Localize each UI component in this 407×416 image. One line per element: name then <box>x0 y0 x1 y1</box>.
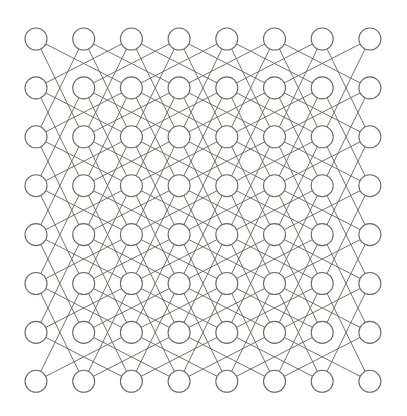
graph-node <box>73 321 95 343</box>
graph-node <box>216 321 238 343</box>
graph-node <box>264 273 286 295</box>
graph-node <box>168 28 190 50</box>
graph-node <box>216 126 238 148</box>
graph-node <box>216 370 238 392</box>
graph-node <box>264 28 286 50</box>
graph-node <box>311 370 333 392</box>
graph-node <box>120 175 142 197</box>
graph-node <box>73 224 95 246</box>
graph-node <box>168 370 190 392</box>
graph-node <box>73 175 95 197</box>
graph-node <box>120 370 142 392</box>
knight-graph-figure <box>0 0 407 416</box>
graph-node <box>311 224 333 246</box>
graph-node <box>216 175 238 197</box>
graph-node <box>120 224 142 246</box>
graph-node <box>120 28 142 50</box>
graph-node <box>25 321 47 343</box>
graph-node <box>25 273 47 295</box>
knight-graph-canvas <box>0 0 407 416</box>
graph-node <box>359 77 381 99</box>
graph-node <box>25 370 47 392</box>
graph-node <box>359 28 381 50</box>
graph-node <box>73 370 95 392</box>
graph-node <box>216 77 238 99</box>
graph-node <box>264 126 286 148</box>
graph-node <box>25 224 47 246</box>
graph-node <box>311 77 333 99</box>
graph-node <box>120 77 142 99</box>
graph-node <box>168 321 190 343</box>
graph-node <box>120 126 142 148</box>
graph-node <box>168 77 190 99</box>
graph-node <box>120 321 142 343</box>
graph-node <box>359 126 381 148</box>
graph-node <box>264 175 286 197</box>
graph-node <box>311 175 333 197</box>
graph-node <box>359 224 381 246</box>
graph-node <box>359 321 381 343</box>
graph-node <box>73 77 95 99</box>
graph-node <box>311 28 333 50</box>
figure-background <box>0 0 407 416</box>
graph-node <box>311 126 333 148</box>
graph-node <box>168 224 190 246</box>
graph-node <box>73 28 95 50</box>
graph-node <box>216 273 238 295</box>
graph-node <box>216 28 238 50</box>
graph-node <box>359 175 381 197</box>
graph-node <box>25 175 47 197</box>
graph-node <box>264 224 286 246</box>
graph-node <box>264 77 286 99</box>
graph-node <box>264 321 286 343</box>
graph-node <box>311 273 333 295</box>
graph-node <box>120 273 142 295</box>
graph-node <box>25 28 47 50</box>
graph-node <box>73 126 95 148</box>
graph-node <box>168 273 190 295</box>
graph-node <box>73 273 95 295</box>
graph-node <box>25 126 47 148</box>
graph-node <box>359 370 381 392</box>
graph-node <box>264 370 286 392</box>
graph-node <box>168 175 190 197</box>
graph-node <box>216 224 238 246</box>
graph-node <box>25 77 47 99</box>
graph-node <box>311 321 333 343</box>
graph-node <box>359 273 381 295</box>
graph-node <box>168 126 190 148</box>
